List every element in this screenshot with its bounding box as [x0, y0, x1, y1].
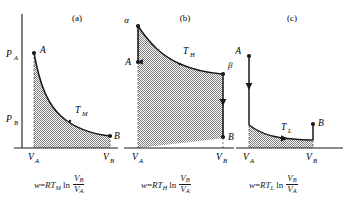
panel-a-ytick-pb-base: P: [5, 114, 12, 124]
panel-b-point-alpha: [136, 24, 140, 28]
panel-c-point-B: [311, 122, 315, 126]
panel-b-eqn-coefficient: RT: [152, 180, 163, 190]
panel-b-label-beta: β: [227, 60, 233, 70]
panel-b-label-TH: T H: [183, 46, 196, 58]
panel-a-marker-tm: [69, 120, 71, 122]
panel-b-eqn-log: ln: [169, 180, 176, 190]
panel-a-ytick-pa-base: P: [5, 49, 12, 59]
panel-a-xtick-vb-base: V: [103, 152, 110, 162]
panel-b-eqn-denominator: VA: [179, 184, 190, 195]
panel-c-eqn-fraction: VBVA: [286, 174, 297, 195]
panel-b-label-B: B: [228, 132, 234, 142]
panel-c-xtick-va: V A: [243, 152, 255, 164]
panel-a-eqn-fraction: VBVA: [73, 174, 84, 195]
panel-b-eqn-numerator: VB: [179, 174, 190, 184]
panel-c-eqn-numerator: VB: [286, 174, 297, 184]
panel-a-point-B: [108, 134, 112, 138]
panel-c-eqn-den-sub: A: [293, 187, 297, 194]
panel-a-label-TM: T M: [75, 105, 88, 117]
panel-c-eqn-coefficient: RT: [260, 180, 271, 190]
panel-a-ytick-pb: P B: [5, 114, 18, 126]
panel-a-eqn-log: ln: [63, 180, 70, 190]
panel-a-label-B: B: [114, 131, 120, 141]
panel-b-eqn-coefficient-sub: H: [163, 184, 168, 191]
panel-c-eqn-coefficient-sub: L: [271, 184, 275, 191]
panel-a-eqn-denominator: VA: [73, 184, 84, 195]
panel-b-point-B: [221, 135, 225, 139]
panel-a-xtick-vb: V B: [103, 152, 114, 164]
panel-a-xtick-vb-sub: B: [110, 157, 114, 164]
panel-b-eqn-den-sub: A: [186, 187, 190, 194]
panel-c: [236, 54, 343, 148]
panel-b-eqn-fraction: VBVA: [179, 174, 190, 195]
panel-a-label-TM-base: T: [75, 105, 81, 115]
panel-b-marker-th: [179, 63, 181, 65]
panel-b-point-A: [136, 60, 140, 64]
panel-b-xtick-vb-sub: B: [223, 157, 227, 164]
panel-c-label-TL-base: T: [281, 122, 287, 132]
pv-diagram-svg: (a) (b) (c) P A P B A B T M V A V B α A: [0, 0, 351, 202]
panel-b-xtick-vb: V B: [216, 152, 227, 164]
thermodynamics-figure: (a) (b) (c) P A P B A B T M V A V B α A: [0, 0, 351, 202]
panel-a-xtick-va-sub: A: [34, 157, 40, 164]
panel-a-caption: (a): [72, 13, 82, 23]
panel-a-label-TM-sub: M: [81, 110, 88, 117]
panel-b-eqn-num-sub: B: [186, 176, 190, 183]
panel-a-ytick-pb-sub: B: [14, 119, 18, 126]
panel-b: [124, 24, 234, 148]
panel-b-point-beta: [221, 72, 225, 76]
panel-c-label-A: A: [234, 46, 241, 56]
panel-c-eqn-log: ln: [276, 180, 283, 190]
panel-a-eqn-numerator: VB: [73, 174, 84, 184]
panel-b-work-equation: w=RTHlnVBVA: [141, 174, 191, 195]
panel-b-work-area: [138, 26, 224, 148]
panel-a-ytick-pa: P A: [5, 49, 19, 61]
panel-a-eqn-coefficient-sub: M: [56, 184, 61, 191]
panel-a-label-A: A: [39, 45, 46, 55]
panel-c-xtick-va-base: V: [243, 152, 250, 162]
panel-a-eqn-num-sub: B: [79, 176, 83, 183]
panel-b-label-TH-base: T: [183, 46, 189, 56]
panel-b-xtick-va-base: V: [132, 152, 139, 162]
panel-b-label-alpha: α: [124, 15, 129, 25]
panel-a-eqn-coefficient: RT: [45, 180, 56, 190]
panel-c-label-TL-sub: L: [287, 127, 292, 134]
panel-c-xtick-vb-sub: B: [313, 157, 317, 164]
panel-c-point-A: [247, 54, 251, 58]
panel-c-eqn-denominator: VA: [286, 184, 297, 195]
panel-a-ytick-pa-sub: A: [13, 54, 19, 61]
panel-c-label-B: B: [318, 118, 324, 128]
panel-c-caption: (c): [287, 13, 297, 23]
panel-c-xtick-vb-base: V: [306, 152, 313, 162]
panel-a-point-A: [32, 51, 36, 55]
panel-a-xtick-va-base: V: [28, 152, 35, 162]
panel-c-xtick-vb: V B: [306, 152, 317, 164]
panel-c-eqn-num-sub: B: [293, 176, 297, 183]
panel-c-label-TL: T L: [281, 122, 292, 134]
panel-c-work-equation: w=RTLlnVBVA: [249, 174, 298, 195]
panel-c-arrow-A-down: [246, 83, 253, 90]
panel-c-xtick-va-sub: A: [249, 157, 255, 164]
panel-a-eqn-den-sub: A: [79, 187, 83, 194]
panel-b-label-A: A: [124, 57, 131, 67]
panel-a-xtick-va: V A: [28, 152, 40, 164]
panel-a-work-equation: w=RTMlnVBVA: [34, 174, 84, 195]
panel-b-xtick-va-sub: A: [138, 157, 144, 164]
panel-a: [14, 14, 118, 148]
panel-b-caption: (b): [180, 13, 191, 23]
panel-b-xtick-va: V A: [132, 152, 144, 164]
panel-b-xtick-vb-base: V: [216, 152, 223, 162]
panel-b-label-TH-sub: H: [189, 51, 196, 58]
